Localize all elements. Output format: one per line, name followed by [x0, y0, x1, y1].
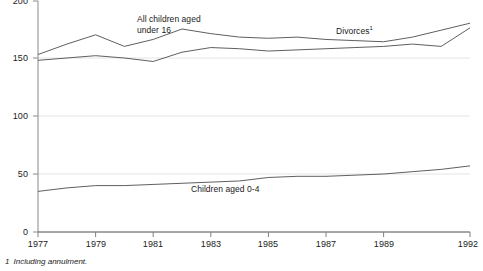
x-axis-label-1987: 1987 — [308, 240, 344, 249]
y-axis-label-150: 150 — [2, 54, 28, 63]
x-axis-label-1992: 1992 — [450, 240, 483, 249]
x-axis-label-1985: 1985 — [250, 240, 286, 249]
y-axis-label-200: 200 — [2, 0, 28, 6]
y-tick-marks — [33, 1, 38, 232]
gridlines — [38, 58, 470, 174]
series-annotation-all-children-line2: under 16 — [137, 25, 171, 36]
x-axis-label-1979: 1979 — [78, 240, 114, 249]
y-axis-label-100: 100 — [2, 112, 28, 121]
series-annotation-all-children-line1: All children aged — [137, 14, 201, 25]
x-axis-label-1983: 1983 — [193, 240, 229, 249]
x-tick-marks — [38, 232, 470, 237]
y-axis-label-50: 50 — [2, 170, 28, 179]
series-line-all-children-under-16 — [38, 28, 470, 62]
x-axis-label-1989: 1989 — [366, 240, 402, 249]
series-annotation-divorces-text: Divorces — [336, 26, 369, 36]
line-chart-canvas — [0, 0, 483, 271]
series-annotation-children-0-4: Children aged 0-4 — [191, 184, 259, 195]
chart-footnote: 1Including annulment. — [5, 257, 87, 266]
x-axis-label-1981: 1981 — [135, 240, 171, 249]
x-axis-label-1977: 1977 — [20, 240, 56, 249]
data-series — [38, 23, 470, 191]
y-axis-label-0: 0 — [2, 228, 28, 237]
series-annotation-divorces: Divorces1 — [336, 26, 373, 37]
footnote-marker-divorces: 1 — [369, 25, 372, 31]
footnote-number: 1 — [5, 257, 9, 266]
chart-figure: 200 150 100 50 0 1977 1979 1981 1983 198… — [0, 0, 483, 271]
footnote-text: Including annulment. — [13, 257, 87, 266]
